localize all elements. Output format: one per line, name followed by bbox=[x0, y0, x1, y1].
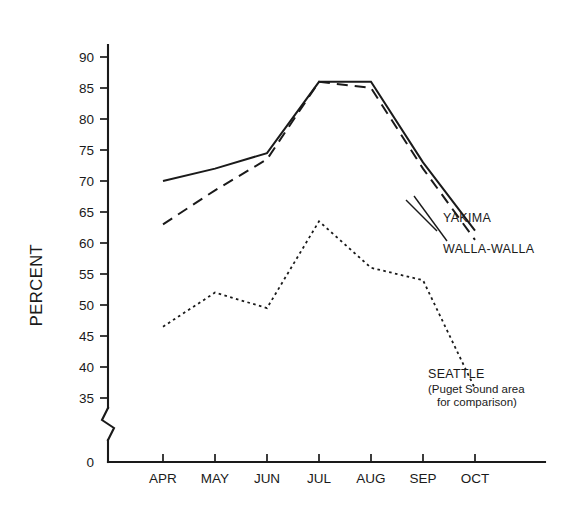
y-tick-label-90: 90 bbox=[79, 50, 94, 65]
y-tick-label-40: 40 bbox=[79, 360, 94, 375]
x-tick-label-may: MAY bbox=[201, 471, 229, 486]
x-tick-label-oct: OCT bbox=[461, 471, 490, 486]
y-axis-title: PERCENT bbox=[27, 244, 45, 326]
line-chart: 90 85 80 75 70 65 60 55 50 45 40 35 0 AP… bbox=[0, 0, 583, 515]
x-tick-label-sep: SEP bbox=[409, 471, 436, 486]
x-tick-label-jul: JUL bbox=[307, 471, 331, 486]
y-axis-break-symbol bbox=[102, 408, 114, 440]
y-tick-label-35: 35 bbox=[79, 391, 94, 406]
series-note-seattle-line1: (Puget Sound area bbox=[428, 383, 525, 395]
series-line-yakima bbox=[163, 82, 475, 231]
y-tick-label-80: 80 bbox=[79, 112, 94, 127]
y-tick-label-45: 45 bbox=[79, 329, 94, 344]
leader-line-yakima bbox=[406, 200, 437, 231]
series-label-walla-walla: WALLA-WALLA bbox=[443, 242, 535, 256]
x-tick-marks bbox=[163, 454, 475, 462]
chart-container: 90 85 80 75 70 65 60 55 50 45 40 35 0 AP… bbox=[0, 0, 583, 515]
series-label-yakima: YAKIMA bbox=[443, 211, 491, 225]
y-tick-label-60: 60 bbox=[79, 236, 94, 251]
y-tick-label-55: 55 bbox=[79, 267, 94, 282]
y-tick-marks bbox=[100, 57, 108, 398]
x-tick-label-aug: AUG bbox=[356, 471, 385, 486]
x-tick-label-jun: JUN bbox=[254, 471, 280, 486]
y-tick-label-0: 0 bbox=[86, 455, 94, 470]
y-tick-label-50: 50 bbox=[79, 298, 94, 313]
x-tick-label-apr: APR bbox=[149, 471, 177, 486]
y-tick-label-65: 65 bbox=[79, 205, 94, 220]
y-tick-label-85: 85 bbox=[79, 81, 94, 96]
y-tick-label-70: 70 bbox=[79, 174, 94, 189]
series-note-seattle-line2: for comparison) bbox=[437, 396, 517, 408]
series-line-seattle bbox=[163, 221, 475, 388]
series-label-seattle: SEATTLE bbox=[428, 367, 485, 381]
y-tick-label-75: 75 bbox=[79, 143, 94, 158]
